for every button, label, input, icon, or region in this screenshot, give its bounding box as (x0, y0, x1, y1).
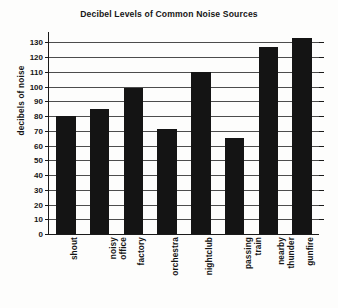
x-axis-label: nearbythunder (277, 237, 297, 307)
y-axis-tick-label: 110 (30, 67, 43, 76)
bar (90, 109, 110, 234)
y-axis-tick-right (319, 101, 324, 102)
y-axis-tick-right (319, 42, 324, 43)
bars-group (49, 32, 319, 234)
y-axis-tick-label: 10 (34, 215, 43, 224)
bar (292, 38, 312, 234)
y-axis-tick-right (319, 160, 324, 161)
x-axis-label: noisyoffice (109, 237, 129, 307)
x-axis-label: passingtrain (244, 237, 264, 307)
y-axis-tick-label: 50 (34, 156, 43, 165)
x-axis-label: factory (137, 237, 151, 307)
bar (225, 138, 245, 234)
y-axis-tick-label: 120 (30, 53, 43, 62)
bar (157, 129, 177, 234)
y-axis-tick-label: 80 (34, 112, 43, 121)
bar (124, 88, 144, 234)
x-axis-label: shout (70, 237, 84, 307)
y-axis-tick-right (319, 72, 324, 73)
x-axis-label: nightclub (205, 237, 219, 307)
y-axis-tick-label: 100 (30, 82, 43, 91)
bar (259, 47, 279, 234)
y-axis-tick-right (319, 87, 324, 88)
y-axis-tick-label: 0 (39, 230, 43, 239)
x-axis-label: orchestra (171, 237, 185, 307)
y-axis-tick-right (319, 57, 324, 58)
y-axis-tick-right (319, 175, 324, 176)
bar (56, 116, 76, 234)
y-axis-tick-label: 20 (34, 200, 43, 209)
y-axis-tick-right (319, 219, 324, 220)
plot-area: 0102030405060708090100110120130 (48, 32, 319, 235)
y-axis-tick (45, 234, 49, 235)
y-axis-tick-label: 60 (34, 141, 43, 150)
y-axis-tick-label: 90 (34, 97, 43, 106)
y-axis-tick-label: 70 (34, 126, 43, 135)
y-axis-tick-right (319, 205, 324, 206)
bar (191, 72, 211, 234)
y-axis-tick-label: 40 (34, 171, 43, 180)
y-axis-title: decibels of noise (17, 56, 26, 146)
y-axis-tick-right (319, 131, 324, 132)
y-axis-tick-label: 130 (30, 38, 43, 47)
y-axis-tick-right (319, 146, 324, 147)
chart-title: Decibel Levels of Common Noise Sources (0, 9, 338, 19)
bar-chart-figure: Decibel Levels of Common Noise Sources d… (0, 0, 338, 308)
x-axis-label: gunfire (306, 237, 320, 307)
x-axis-labels: shoutnoisyofficefactoryorchestranightclu… (48, 237, 319, 307)
y-axis-tick-right (319, 116, 324, 117)
y-axis-tick-label: 30 (34, 185, 43, 194)
y-axis-tick-right (319, 190, 324, 191)
